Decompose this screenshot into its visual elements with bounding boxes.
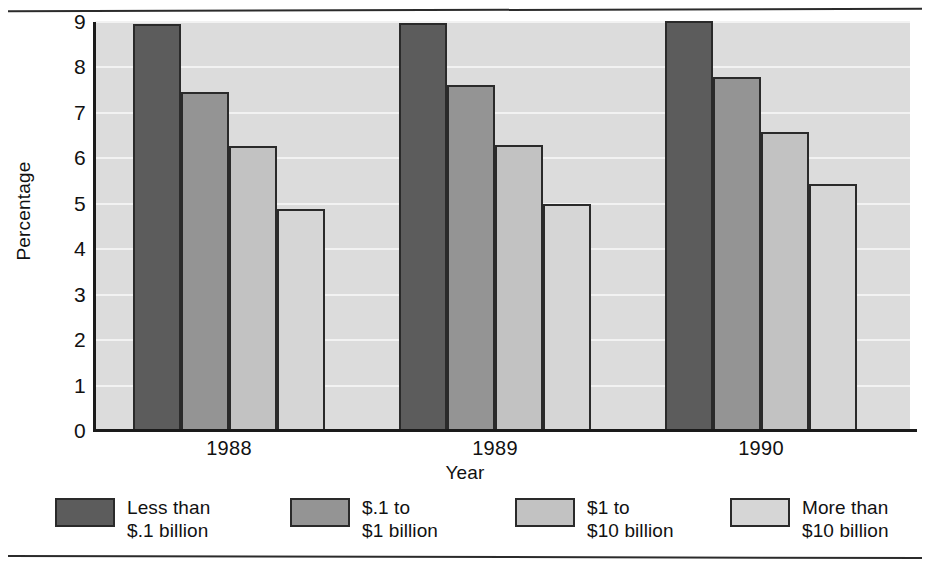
y-axis-tick-label: 4 [26, 238, 86, 259]
gridline [95, 66, 910, 68]
x-axis-tick-label: 1989 [435, 437, 555, 460]
y-axis-tick-label: 3 [26, 284, 86, 305]
top-divider-rule [8, 8, 922, 13]
legend-item: More than $10 billion [730, 496, 889, 542]
bar [713, 77, 761, 431]
bar [665, 21, 713, 431]
bar [399, 23, 447, 431]
bar [277, 209, 325, 431]
plot-area [95, 22, 910, 431]
bar [543, 204, 591, 431]
bar [229, 146, 277, 431]
gridline [95, 21, 910, 23]
y-axis-tick-label: 7 [26, 102, 86, 123]
bar [133, 24, 181, 431]
x-axis-tick-label: 1988 [169, 437, 289, 460]
y-axis-tick-label: 2 [26, 329, 86, 350]
x-axis-tick-label: 1990 [701, 437, 821, 460]
bottom-divider-rule [8, 555, 922, 559]
legend-label: Less than $.1 billion [127, 496, 210, 542]
legend-label: $1 to $10 billion [587, 496, 674, 542]
legend-item: Less than $.1 billion [55, 496, 210, 542]
bar [447, 85, 495, 431]
bar [761, 132, 809, 431]
y-axis-tick-label: 1 [26, 375, 86, 396]
bar [809, 184, 857, 431]
bar [495, 145, 543, 431]
legend-swatch [730, 498, 790, 527]
legend-item: $.1 to $1 billion [290, 496, 438, 542]
legend-label: More than $10 billion [802, 496, 889, 542]
chart-legend: Less than $.1 billion$.1 to $1 billion$1… [0, 496, 930, 552]
x-axis-line [93, 429, 917, 432]
legend-swatch [290, 498, 350, 527]
legend-swatch [55, 498, 115, 527]
y-axis-tick-label: 6 [26, 147, 86, 168]
y-axis-tick-label: 0 [26, 420, 86, 441]
y-axis-line [93, 22, 96, 431]
legend-label: $.1 to $1 billion [362, 496, 438, 542]
y-axis-tick-label: 8 [26, 56, 86, 77]
legend-item: $1 to $10 billion [515, 496, 674, 542]
bar [181, 92, 229, 431]
y-axis-tick-label: 5 [26, 193, 86, 214]
legend-swatch [515, 498, 575, 527]
y-axis-title: Percentage [13, 121, 35, 301]
y-axis-tick-label: 9 [26, 11, 86, 32]
x-axis-title: Year [0, 462, 930, 484]
